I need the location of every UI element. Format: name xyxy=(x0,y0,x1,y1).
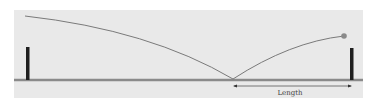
ball xyxy=(341,33,347,39)
diagram-panel xyxy=(14,10,363,98)
right-post xyxy=(350,48,354,80)
left-post xyxy=(26,47,30,80)
diagram-canvas: Length xyxy=(0,0,379,106)
length-label: Length xyxy=(277,89,303,97)
